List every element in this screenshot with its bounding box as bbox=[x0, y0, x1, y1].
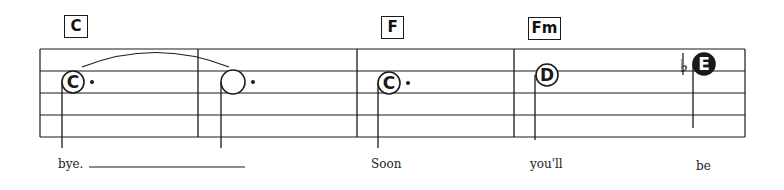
lyric-be: be bbox=[696, 159, 711, 173]
chord-symbol-fm: Fm bbox=[528, 17, 561, 40]
note-letter: D bbox=[540, 65, 554, 85]
lyric-bye: bye. bbox=[58, 157, 83, 171]
augmentation-dot bbox=[90, 80, 94, 84]
flat-icon: ♭ bbox=[680, 55, 689, 76]
note-letter: C bbox=[67, 72, 79, 92]
note-letter: C bbox=[383, 73, 395, 93]
augmentation-dot bbox=[406, 81, 410, 85]
chord-symbol-c: C bbox=[64, 15, 88, 38]
notehead-blank bbox=[221, 70, 245, 94]
chord-symbol-f: F bbox=[381, 16, 404, 39]
lyric-soon: Soon bbox=[371, 157, 401, 171]
note-letter: E bbox=[698, 54, 710, 74]
tie-curve bbox=[82, 53, 229, 68]
augmentation-dot bbox=[251, 80, 255, 84]
lyric-youll: you'll bbox=[530, 157, 563, 171]
